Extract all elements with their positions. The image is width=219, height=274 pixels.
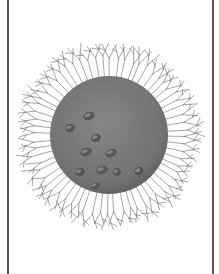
filament: [65, 43, 89, 83]
filament: [127, 46, 144, 82]
filament: [26, 156, 57, 173]
filament: [18, 138, 53, 151]
filament: [165, 134, 201, 152]
filament: [158, 162, 190, 184]
filament: [82, 190, 101, 229]
cell-illustration: [0, 0, 219, 274]
filament: [112, 46, 125, 79]
filament: [161, 94, 198, 114]
filament: [50, 181, 77, 217]
filament: [162, 153, 194, 168]
filament: [153, 75, 182, 101]
filament: [37, 174, 69, 205]
filament: [58, 49, 83, 86]
filament: [165, 118, 205, 137]
cell-body: [50, 76, 168, 194]
filament: [149, 69, 177, 97]
filament: [135, 185, 159, 222]
filament: [44, 177, 73, 209]
filament: [35, 71, 66, 99]
filament: [120, 190, 136, 226]
filament: [159, 89, 191, 109]
filament: [22, 92, 58, 112]
filament: [140, 182, 166, 215]
filament: [125, 189, 141, 223]
